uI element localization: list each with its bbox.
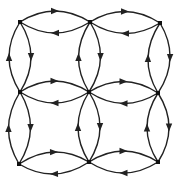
node-n12 [156,91,160,95]
arrowhead-icon [51,78,59,84]
arrowhead-icon [50,171,58,178]
edge-n21-to-n11 [78,92,89,162]
arrowhead-icon [75,53,82,61]
arrowhead-icon [27,124,34,132]
arrowhead-icon [166,124,172,132]
arrowhead-icon [51,100,59,106]
arrowhead-icon [50,149,58,156]
arrowhead-icon [28,53,34,61]
arrowhead-icon [6,53,12,61]
node-n21 [87,160,91,164]
edge-n11-to-n01 [78,22,90,92]
edge-n01-to-n02 [90,11,160,23]
edge-n01-to-n00 [20,22,90,33]
arrowhead-icon [144,124,150,132]
node-n20 [17,162,21,166]
arrowhead-icon [120,170,128,176]
arrowhead-icon [121,30,129,37]
arrowhead-icon [5,124,12,132]
arrowhead-icon [75,123,81,131]
edge-n12-to-n02 [148,23,160,93]
edge-n21-to-n20 [19,162,89,174]
edge-n02-to-n12 [158,23,170,93]
arrowhead-icon [119,78,127,85]
edge-n00-to-n01 [20,11,90,22]
graph-canvas [0,0,179,182]
node-n11 [87,90,91,94]
edge-n21-to-n22 [89,151,158,162]
arrowhead-icon [97,123,103,131]
arrowhead-icon [51,8,59,14]
arrowhead-icon [120,148,128,154]
edge-n12-to-n11 [89,92,158,104]
edge-n01-to-n11 [89,22,101,92]
edge-n10-to-n11 [20,81,89,92]
edge-n00-to-n10 [20,22,31,92]
arrowhead-icon [145,54,152,62]
arrowhead-icon [119,100,127,107]
directed-grid-graph [0,0,179,182]
arrowhead-icon [97,53,104,61]
edge-n02-to-n01 [90,22,160,34]
arrowhead-icon [51,30,59,36]
nodes-layer [17,20,162,166]
arrowhead-icon [121,8,129,15]
edge-n10-to-n20 [19,92,31,164]
edge-n11-to-n10 [20,92,89,103]
edge-n20-to-n21 [19,152,89,164]
edge-n12-to-n22 [158,93,169,162]
arrowhead-icon [167,54,174,62]
edge-n11-to-n12 [89,81,158,93]
node-n01 [88,20,92,24]
node-n02 [158,21,162,25]
node-n00 [18,20,22,24]
edge-n22-to-n12 [147,93,158,162]
edge-n22-to-n21 [89,162,158,173]
node-n22 [156,160,160,164]
edge-n20-to-n10 [8,92,20,164]
edge-n10-to-n00 [9,22,20,92]
edge-n11-to-n21 [89,92,100,162]
node-n10 [18,90,22,94]
